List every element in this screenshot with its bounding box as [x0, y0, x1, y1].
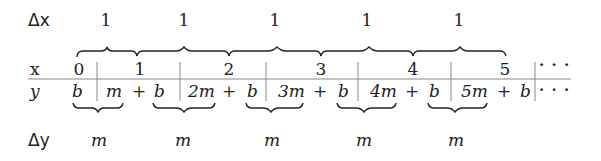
y-cell-plus: + — [497, 81, 511, 101]
delta-x-value: 1 — [270, 10, 281, 30]
bottom-brace-5 — [428, 103, 487, 112]
row-label-x: x — [30, 59, 40, 79]
y-cell-b: b — [338, 81, 349, 101]
x-value: 3 — [316, 59, 327, 79]
delta-y-value: m — [448, 130, 464, 150]
top-braces — [77, 47, 506, 57]
top-brace-4-5 — [413, 47, 506, 56]
x-ellipsis: · · · — [539, 56, 570, 74]
y-cell-b: b — [520, 81, 531, 101]
y-cell-plus: + — [405, 81, 419, 101]
x-value: 4 — [408, 59, 419, 79]
y-cell-b: b — [154, 81, 165, 101]
y-cell-plus: + — [313, 81, 327, 101]
x-value: 5 — [500, 59, 511, 79]
y-cell-2m: 2m — [188, 81, 215, 101]
y-cell-plus: + — [222, 81, 236, 101]
x-value: 0 — [74, 59, 85, 79]
top-brace-1-2 — [137, 47, 229, 56]
row-label-y: y — [30, 81, 40, 101]
delta-y-value: m — [91, 130, 107, 150]
x-value: 2 — [224, 59, 235, 79]
row-label-delta-x: Δx — [28, 10, 50, 30]
y-cell-5m: 5m — [461, 81, 488, 101]
x-value: 1 — [135, 59, 146, 79]
y-cell-m: m — [106, 81, 122, 101]
y-cell-b: b — [429, 81, 440, 101]
bottom-brace-4 — [337, 103, 396, 112]
delta-x-value: 1 — [101, 10, 112, 30]
delta-x-value: 1 — [362, 10, 373, 30]
y-cell-4m: 4m — [370, 81, 397, 101]
delta-x-value: 1 — [454, 10, 465, 30]
bottom-brace-3 — [246, 103, 303, 112]
delta-y-value: m — [264, 130, 280, 150]
delta-x-value: 1 — [179, 10, 190, 30]
top-brace-3-4 — [321, 47, 413, 56]
delta-y-value: m — [175, 130, 191, 150]
top-brace-0-1 — [77, 47, 137, 57]
bottom-brace-2 — [153, 103, 215, 112]
bottom-braces — [73, 103, 487, 112]
y-ellipsis: · · · — [539, 81, 570, 99]
y-cell-b: b — [247, 81, 258, 101]
y-cell-b: b — [72, 81, 83, 101]
row-label-delta-y: Δy — [28, 130, 50, 150]
y-cell-plus: + — [132, 81, 146, 101]
top-brace-2-3 — [229, 47, 321, 56]
y-cell-3m: 3m — [278, 81, 305, 101]
bottom-brace-1 — [73, 103, 123, 112]
delta-y-value: m — [356, 130, 372, 150]
